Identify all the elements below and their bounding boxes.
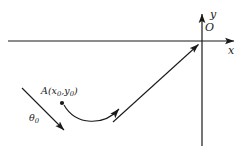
point-a-marker: [60, 101, 64, 105]
figure-canvas: y O x A(x0,y0) θ0: [0, 0, 243, 146]
straight-ray-to-origin: [113, 45, 199, 123]
point-a-name: A: [41, 85, 48, 96]
x-axis-label: x: [228, 45, 234, 56]
angle-theta-label: θ0: [29, 113, 39, 124]
theta-subscript: 0: [35, 117, 39, 125]
trajectory-curve: [64, 105, 119, 121]
origin-label: O: [205, 22, 214, 33]
point-a-label: A(x0,y0): [41, 86, 78, 97]
point-a-close-paren: ): [74, 85, 78, 96]
y-axis-label: y: [210, 9, 216, 20]
